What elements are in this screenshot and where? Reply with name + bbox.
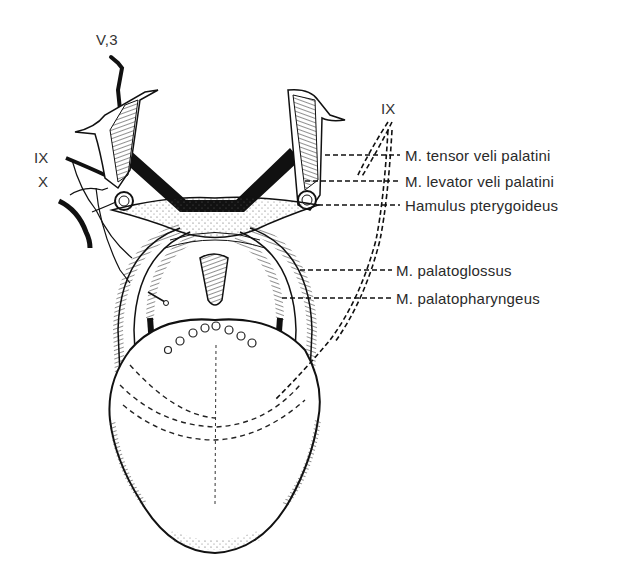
tongue — [109, 319, 319, 553]
label-palatopharyngeus: M. palatopharyngeus — [396, 291, 540, 306]
label-tensor-veli-palatini: M. tensor veli palatini — [405, 148, 551, 163]
label-nerve-ix-left: IX — [34, 150, 49, 165]
palatine-aponeurosis — [112, 197, 318, 237]
anatomical-figure: V,3 IX X IX M. tensor veli palatini M. l… — [0, 0, 622, 585]
label-palatoglossus: M. palatoglossus — [396, 263, 512, 278]
label-nerve-ix-right: IX — [381, 101, 396, 116]
label-nerve-x-left: X — [38, 174, 48, 189]
label-hamulus-pterygoideus: Hamulus pterygoideus — [405, 198, 558, 213]
label-levator-veli-palatini: M. levator veli palatini — [405, 174, 554, 189]
uvula — [200, 254, 228, 305]
left-tensor-muscle — [75, 90, 158, 210]
label-nerve-v3: V,3 — [96, 32, 118, 47]
right-tensor-muscle — [288, 90, 345, 210]
